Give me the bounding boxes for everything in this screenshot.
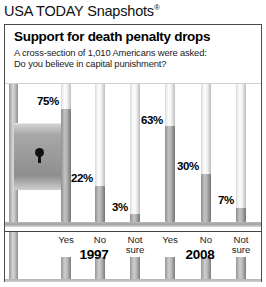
bar-value-label-3: 3%	[93, 201, 128, 213]
bar-value-label-4: 63%	[123, 114, 163, 126]
chart-legend: Yes No Not sure Yes No Not sure 1997 200…	[5, 231, 261, 282]
legend-floor	[5, 279, 261, 282]
masthead: USA TODAY Snapshots®	[4, 0, 262, 23]
bar-stub-3	[130, 257, 140, 279]
bar-value-label-5: 30%	[159, 160, 199, 172]
legend-category-3-line2: sure	[115, 245, 155, 255]
bar-value-label-1: 75%	[19, 95, 59, 107]
bar-fill-1	[61, 109, 71, 222]
registered-mark: ®	[154, 3, 160, 12]
legend-category-4-line1: Yes	[150, 235, 190, 245]
legend-category-4: Yes	[150, 235, 190, 245]
subtitle-line-1: A cross-section of 1,010 Americans were …	[14, 47, 260, 58]
legend-year-1997: 1997	[67, 247, 121, 262]
bar-value-label-2: 22%	[53, 172, 93, 184]
bar-value-label-6: 7%	[199, 194, 234, 206]
bar-fill-6	[236, 208, 246, 222]
legend-category-2-line1: No	[80, 235, 120, 245]
jail-bars-icon-lower	[9, 232, 18, 279]
legend-category-5-line1: No	[186, 235, 226, 245]
keyhole-icon	[35, 148, 44, 163]
bar-fill-3	[130, 214, 140, 222]
snapshot-panel: Support for death penalty drops A cross-…	[4, 24, 262, 282]
legend-category-2: No	[80, 235, 120, 245]
legend-category-6-line2: sure	[221, 245, 261, 255]
subtitle-line-2: Do you believe in capital punishment?	[14, 58, 260, 69]
chart-plot-area: 75% 22% 3% 63% 30% 7%	[5, 83, 261, 227]
bar-track-3	[130, 84, 140, 222]
page-title: Support for death penalty drops	[14, 29, 258, 45]
subtitle: A cross-section of 1,010 Americans were …	[14, 47, 260, 69]
cell-floor	[5, 222, 261, 227]
masthead-brand: USA TODAY Snapshots®	[4, 3, 160, 19]
bar-fill-4	[165, 126, 175, 222]
legend-year-2008: 2008	[173, 247, 227, 262]
legend-category-5: No	[186, 235, 226, 245]
legend-category-3: Not sure	[115, 235, 155, 256]
legend-category-6: Not sure	[221, 235, 261, 256]
bar-track-6	[236, 84, 246, 222]
bar-stub-6	[236, 257, 246, 279]
masthead-brand-text: USA TODAY Snapshots	[4, 3, 154, 19]
snapshot-infographic: USA TODAY Snapshots® Support for death p…	[0, 0, 266, 287]
